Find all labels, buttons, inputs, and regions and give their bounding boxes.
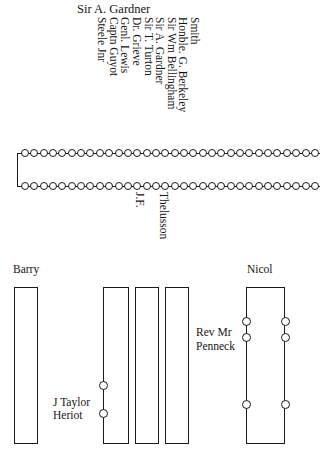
chain-bead-top-6	[68, 149, 76, 157]
pew-nicol-bead-right-upper	[281, 317, 290, 326]
chain-bead-top-18	[180, 149, 188, 157]
pew-middle-second	[135, 287, 159, 444]
chain-bead-top-14	[143, 149, 151, 157]
rotated-name-7: Genl. Lewis	[119, 17, 131, 73]
chain-bead-top-15	[152, 149, 160, 157]
chain-bead-bottom-28	[273, 182, 281, 190]
chain-bead-top-25	[245, 149, 253, 157]
chain-bead-top-24	[236, 149, 244, 157]
pew-label-j-taylor: J Taylor	[53, 396, 90, 409]
pew-nicol-bead-left-lower	[242, 400, 251, 409]
chain-bead-bottom-25	[245, 182, 253, 190]
chain-bead-top-16	[161, 149, 169, 157]
chain-bead-bottom-29	[283, 182, 291, 190]
chain-bead-bottom-7	[77, 182, 85, 190]
chain-bead-top-17	[171, 149, 179, 157]
chain-bead-bottom-31	[302, 182, 310, 190]
chain-bead-top-7	[77, 149, 85, 157]
pew-label-rev-mr: Rev Mr	[196, 326, 231, 339]
chain-bead-bottom-21	[208, 182, 216, 190]
chain-bead-top-12	[124, 149, 132, 157]
chain-bead-top-20	[199, 149, 207, 157]
chain-left-bracket	[17, 153, 18, 186]
pew-label-penneck: Penneck	[196, 340, 235, 353]
chain-bead-bottom-17	[171, 182, 179, 190]
chain-bead-top-2	[30, 149, 38, 157]
pew-middle-third	[165, 287, 189, 444]
diagram-canvas: Sir A. Gardner SmithHonble. G. BerkeleyS…	[0, 0, 320, 453]
chain-bead-bottom-19	[189, 182, 197, 190]
chain-bead-top-26	[255, 149, 263, 157]
chain-bead-top-31	[302, 149, 310, 157]
chain-bead-top-29	[283, 149, 291, 157]
pew-nicol-bead-left-middle	[242, 333, 251, 342]
chain-bead-bottom-11	[115, 182, 123, 190]
pew-label-heriot: Heriot	[53, 409, 82, 422]
chain-bead-top-3	[40, 149, 48, 157]
chain-bead-top-1	[21, 149, 29, 157]
chain-bead-bottom-9	[96, 182, 104, 190]
pew-nicol-bead-right-lower	[281, 400, 290, 409]
rotated-name-bottom-2: Thelusson	[158, 192, 170, 239]
chain-bead-bottom-1	[21, 182, 29, 190]
pew-nicol	[246, 287, 285, 444]
rotated-name-6: Dr. Grieve	[131, 17, 143, 66]
chain-bead-top-27	[264, 149, 272, 157]
pew-taylor-bead-upper	[99, 381, 108, 390]
rotated-name-bottom-1: J.F.	[134, 192, 146, 208]
pew-label-nicol: Nicol	[247, 263, 273, 276]
chain-bead-top-28	[273, 149, 281, 157]
pew-barry	[14, 287, 38, 444]
rotated-name-9: Steele Jnr	[96, 17, 108, 62]
chain-bead-top-8	[86, 149, 94, 157]
pew-label-barry: Barry	[13, 263, 39, 276]
chain-bead-top-23	[227, 149, 235, 157]
chain-bead-bottom-4	[49, 182, 57, 190]
chain-bead-bottom-23	[227, 182, 235, 190]
chain-bead-top-21	[208, 149, 216, 157]
chain-bead-bottom-22	[217, 182, 225, 190]
chain-bead-bottom-24	[236, 182, 244, 190]
rotated-name-2: Honble. G. Berkeley	[177, 17, 189, 112]
chain-bead-top-30	[292, 149, 300, 157]
chain-bead-bottom-5	[58, 182, 66, 190]
chain-bead-bottom-15	[152, 182, 160, 190]
rotated-name-1: Smith	[189, 17, 201, 44]
chain-bead-bottom-18	[180, 182, 188, 190]
chain-bead-bottom-12	[124, 182, 132, 190]
chain-bead-bottom-2	[30, 182, 38, 190]
chain-bead-top-32	[311, 149, 319, 157]
rotated-name-5: Sir T. Turton	[143, 17, 155, 76]
chain-bead-top-9	[96, 149, 104, 157]
chain-bead-bottom-10	[105, 182, 113, 190]
chain-bead-top-22	[217, 149, 225, 157]
chain-bead-top-5	[58, 149, 66, 157]
pew-taylor-bead-lower	[99, 409, 108, 418]
chain-bead-bottom-16	[161, 182, 169, 190]
chain-bead-bottom-27	[264, 182, 272, 190]
chain-bead-top-10	[105, 149, 113, 157]
chain-bead-bottom-20	[199, 182, 207, 190]
rotated-name-4: Sir A. Gardner	[154, 17, 166, 84]
chain-bead-top-13	[133, 149, 141, 157]
chain-bead-bottom-3	[40, 182, 48, 190]
chain-bead-top-19	[189, 149, 197, 157]
rotated-name-3: Sir Wm Bellingham	[166, 17, 178, 109]
pew-nicol-bead-right-middle	[281, 333, 290, 342]
pew-nicol-bead-left-upper	[242, 317, 251, 326]
title-sir-a-gardner: Sir A. Gardner	[77, 3, 150, 16]
chain-bead-top-11	[115, 149, 123, 157]
rotated-name-8: Captn Guyot	[108, 17, 120, 76]
chain-bead-bottom-26	[255, 182, 263, 190]
chain-bead-bottom-32	[311, 182, 319, 190]
pew-taylor-heriot	[103, 287, 129, 444]
chain-bead-bottom-8	[86, 182, 94, 190]
chain-bead-bottom-14	[143, 182, 151, 190]
chain-bead-bottom-6	[68, 182, 76, 190]
chain-bead-bottom-30	[292, 182, 300, 190]
chain-bead-bottom-13	[133, 182, 141, 190]
chain-bead-top-4	[49, 149, 57, 157]
